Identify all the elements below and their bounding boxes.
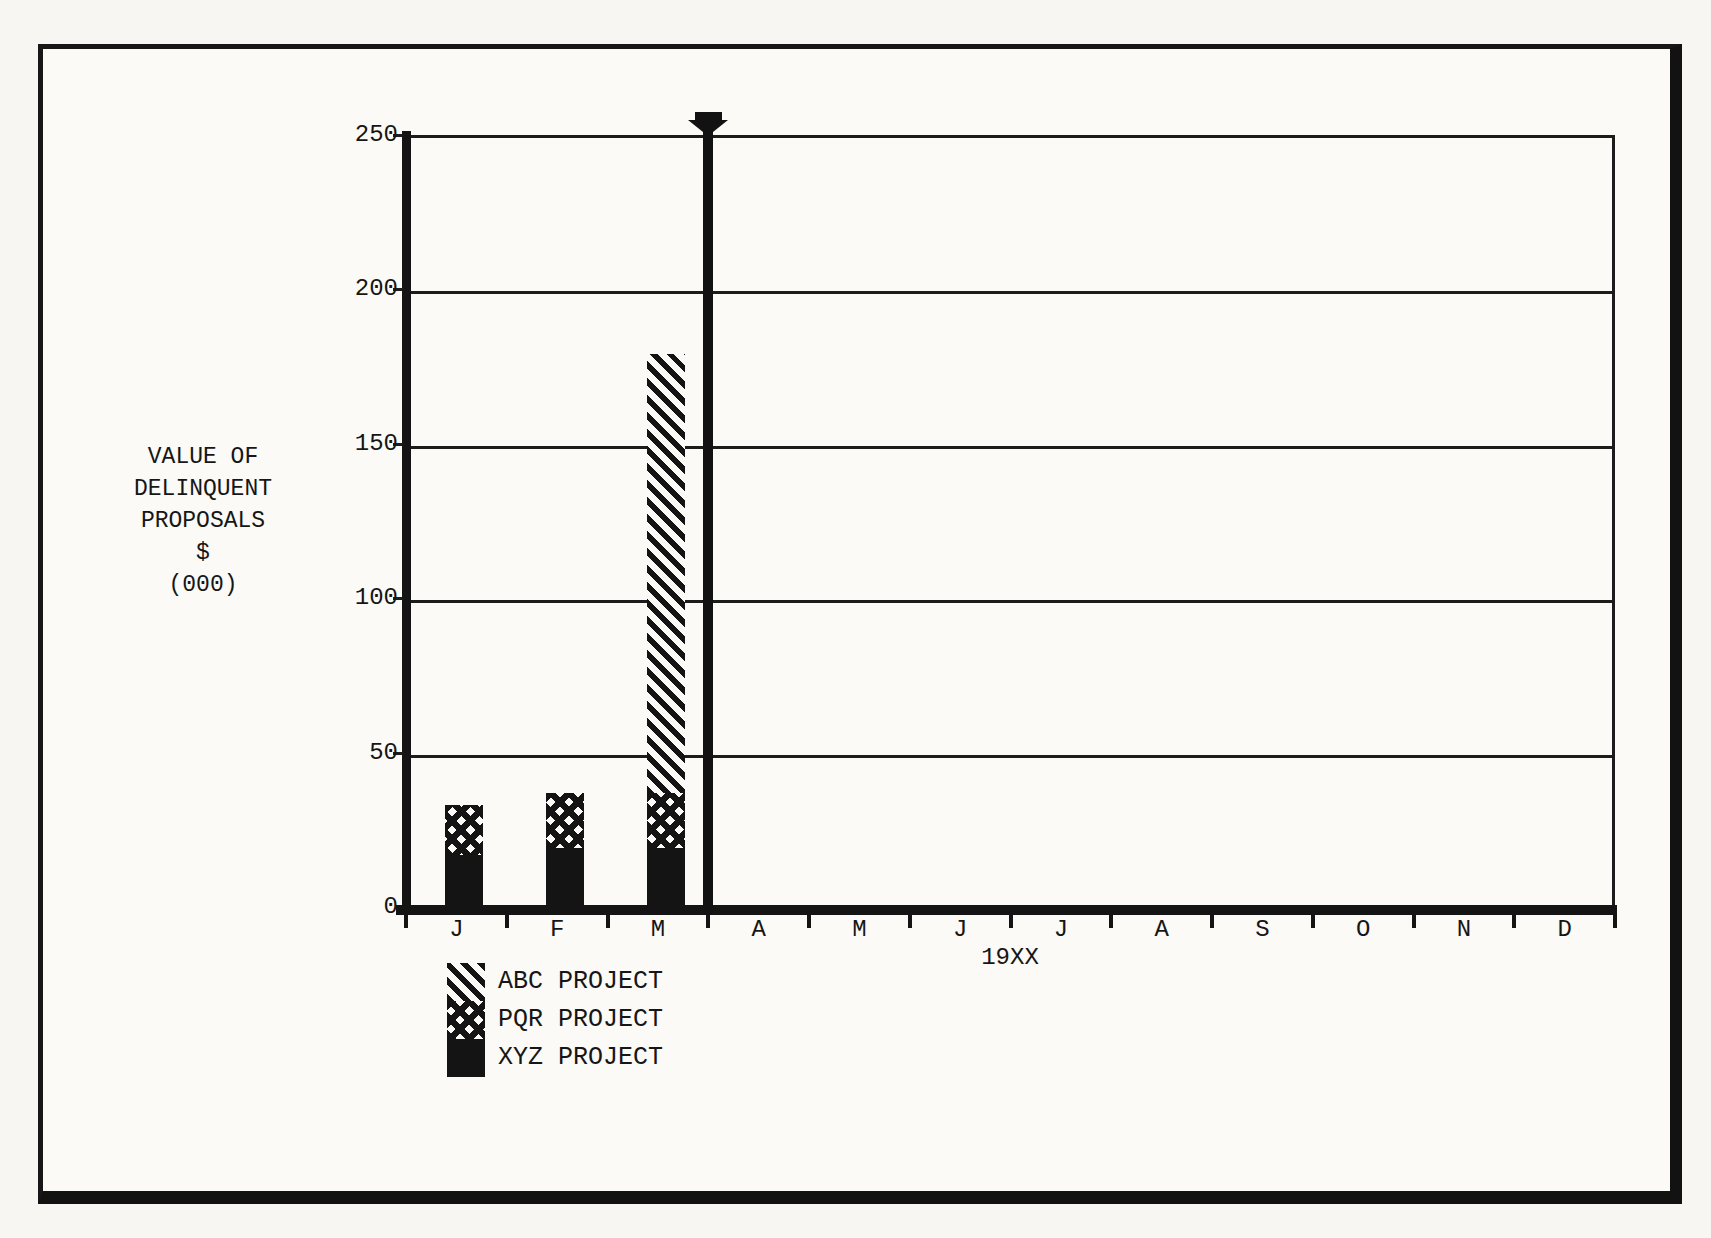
y-tick-label: 150 [278,431,398,457]
gridline [406,446,1612,449]
legend-row: ABC PROJECT [447,963,663,1001]
legend: ABC PROJECTPQR PROJECTXYZ PROJECT [447,963,663,1077]
gridline [406,291,1612,294]
y-tick-label: 50 [278,740,398,766]
bar-segment [445,855,483,907]
legend-row: XYZ PROJECT [447,1039,663,1077]
month-label: A [1132,917,1192,943]
x-tick-mark [1412,915,1416,928]
month-label: M [628,917,688,943]
x-tick-mark [1512,915,1516,928]
legend-swatch-crosshatch [447,1001,485,1039]
bar-segment [546,848,584,907]
bar-segment [647,793,685,849]
x-tick-mark [404,915,408,928]
y-tick-label: 100 [278,585,398,611]
x-tick-mark [908,915,912,928]
legend-swatch-diagonal-hatch [447,963,485,1001]
x-tick-mark [1210,915,1214,928]
x-axis-year-label: 19XX [950,944,1070,971]
month-label: S [1232,917,1292,943]
month-label: M [829,917,889,943]
bar-segment [546,793,584,849]
month-label: N [1434,917,1494,943]
month-label: A [729,917,789,943]
month-label: J [1031,917,1091,943]
bar-segment [647,354,685,792]
gridline [406,755,1612,758]
legend-swatch-solid-black [447,1039,485,1077]
legend-label: PQR PROJECT [498,1001,663,1039]
month-label: J [930,917,990,943]
now-marker-line [703,131,713,915]
x-tick-mark [807,915,811,928]
bar-segment [445,805,483,854]
x-tick-mark [1311,915,1315,928]
x-tick-mark [606,915,610,928]
month-label: J [426,917,486,943]
x-tick-mark [1613,915,1617,928]
x-tick-mark [505,915,509,928]
month-label: D [1535,917,1595,943]
y-tick-label: 200 [278,276,398,302]
y-axis-line [402,131,411,915]
y-tick-label: 250 [278,122,398,148]
now-marker-arrow-icon [688,120,728,136]
legend-label: XYZ PROJECT [498,1039,663,1077]
x-tick-mark [1009,915,1013,928]
month-label: O [1333,917,1393,943]
bar-segment [647,848,685,907]
y-axis-title: VALUE OF DELINQUENT PROPOSALS $ (000) [103,441,303,601]
gridline [406,600,1612,603]
x-tick-mark [1109,915,1113,928]
legend-row: PQR PROJECT [447,1001,663,1039]
scanned-page: VALUE OF DELINQUENT PROPOSALS $ (000) 05… [0,0,1711,1238]
legend-label: ABC PROJECT [498,963,663,1001]
plot-area [406,135,1615,907]
month-label: F [527,917,587,943]
y-tick-label: 0 [278,894,398,920]
x-tick-mark [706,915,710,928]
